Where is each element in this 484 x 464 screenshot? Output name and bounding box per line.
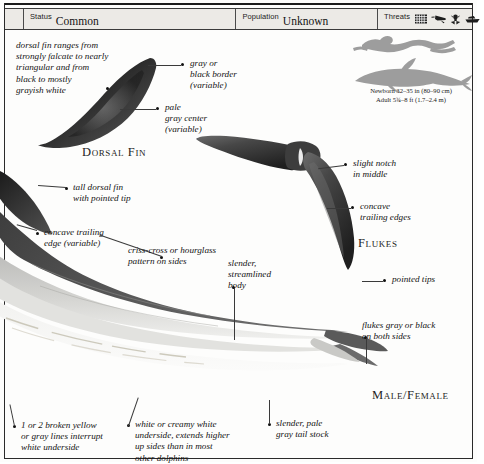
status-bar-leading-cell: [5, 9, 24, 29]
boat-icon: [465, 14, 480, 24]
size-text-block: Newborn 32–35 in (80–90 cm) Adult 5¾–8 f…: [349, 86, 473, 104]
annotation-pale-tail-stock: slender, pale gray tail stock: [276, 418, 396, 440]
annotation-white-underside: white or creamy white underside, extends…: [135, 419, 285, 464]
status-label: Status: [30, 12, 52, 21]
annotation-pointed-tips: pointed tips: [392, 274, 478, 285]
caption-male-female: Male/Female: [372, 388, 449, 403]
human-swimmer-silhouette: [353, 36, 456, 53]
caption-flukes: Flukes: [358, 236, 398, 251]
top-rule: [4, 3, 473, 5]
status-field: Status Common: [24, 9, 236, 29]
status-bar: Status Common Population Unknown Threats: [5, 8, 472, 30]
population-label: Population: [242, 12, 278, 21]
leader-line-pointed-tips: [362, 281, 383, 282]
harpoon-icon: [431, 14, 446, 24]
threats-label: Threats: [384, 12, 410, 21]
annotation-gray-black-border: gray or black border (variable): [190, 58, 280, 92]
annotation-tall-dorsal-fin: tall dorsal fin with pointed tip: [73, 182, 193, 204]
caption-dorsal-fin: Dorsal Fin: [82, 145, 146, 160]
dolphin-body-illustration: [0, 168, 396, 418]
population-field: Population Unknown: [236, 9, 378, 29]
gillnet-icon: [415, 14, 427, 24]
annotation-slender-body: slender, streamlined body: [228, 258, 324, 292]
leader-line-tail-stock: [269, 400, 270, 424]
annotation-dorsal-fin-range: dorsal fin ranges from strongly falcate …: [16, 40, 152, 96]
newborn-size: Newborn 32–35 in (80–90 cm): [349, 86, 473, 95]
leader-line-concave-edges: [327, 208, 351, 209]
threat-icon-group: [415, 14, 480, 25]
annotation-flukes-gray-black: flukes gray or black on both sides: [362, 320, 484, 342]
status-value: Common: [56, 15, 99, 27]
leader-line-pale-center: [120, 109, 156, 110]
leader-line-border: [148, 65, 181, 66]
leader-line-slender-body: [234, 288, 235, 340]
annotation-slight-notch: slight notch in middle: [353, 158, 453, 180]
annotation-pale-gray-center: pale gray center (variable): [165, 102, 255, 136]
population-value: Unknown: [283, 15, 328, 27]
propeller-strike-icon: [450, 14, 461, 25]
adult-size: Adult 5¾–8 ft (1.7–2.4 m): [349, 95, 473, 104]
annotation-concave-trailing-edges: concave trailing edges: [360, 201, 464, 223]
annotation-broken-lines: 1 or 2 broken yellow or gray lines inter…: [21, 420, 151, 454]
threats-field: Threats: [378, 9, 472, 29]
